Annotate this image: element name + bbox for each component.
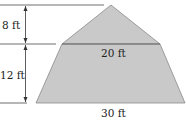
- label-trapezoid-height: 12 ft: [0, 69, 26, 81]
- diagram: 8 ft 12 ft 20 ft 30 ft: [0, 0, 186, 127]
- label-top-width: 20 ft: [101, 47, 127, 59]
- arrowhead-down-icon: [24, 97, 28, 102]
- arrowhead-up-icon: [24, 45, 28, 50]
- arrowhead-down-icon: [24, 38, 28, 43]
- arrowhead-up-icon: [24, 6, 28, 11]
- label-triangle-height: 8 ft: [2, 19, 21, 31]
- label-bottom-width: 30 ft: [101, 107, 127, 119]
- triangle-top: [62, 5, 160, 44]
